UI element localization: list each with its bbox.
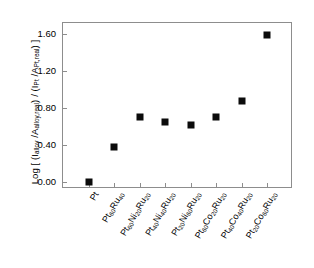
- data-point: [136, 114, 143, 121]
- data-point: [162, 118, 169, 125]
- x-axis-tick-labels: PtPt60Ru40Pt60Ni20Ru20Pt40Ni40Ru20Pt20Ni…: [62, 190, 292, 268]
- data-point: [264, 31, 271, 38]
- x-axis-tick: [267, 183, 268, 187]
- y-axis-tick: [63, 71, 67, 72]
- x-axis-tick: [165, 183, 166, 187]
- y-axis-tick: [63, 34, 67, 35]
- x-axis-tick: [191, 183, 192, 187]
- y-axis-tick-label: 0.00: [0, 175, 56, 186]
- y-axis-tick-label: 0.40: [0, 138, 56, 149]
- data-point: [213, 114, 220, 121]
- x-axis-tick: [242, 183, 243, 187]
- x-axis-tick: [140, 183, 141, 187]
- y-axis-tick-label: 1.20: [0, 64, 56, 75]
- y-axis-tick: [63, 182, 67, 183]
- chart-figure: Log [ (Ialloy /Aalloy,real) / (IPt /APt,…: [0, 0, 314, 268]
- data-point: [187, 122, 194, 129]
- y-axis-tick: [63, 108, 67, 109]
- x-axis-tick: [216, 183, 217, 187]
- y-axis-tick-label: 0.80: [0, 101, 56, 112]
- x-axis-tick-label: Pt: [87, 190, 100, 202]
- y-axis-tick-labels: 0.000.400.801.201.60: [0, 0, 58, 268]
- y-axis-tick: [63, 145, 67, 146]
- y-axis-tick-label: 1.60: [0, 28, 56, 39]
- x-axis-tick: [114, 183, 115, 187]
- data-point: [238, 98, 245, 105]
- data-point: [111, 143, 118, 150]
- x-axis-tick-label: Pt60Ru40: [100, 190, 128, 225]
- plot-area: [62, 22, 292, 188]
- data-point: [85, 178, 92, 185]
